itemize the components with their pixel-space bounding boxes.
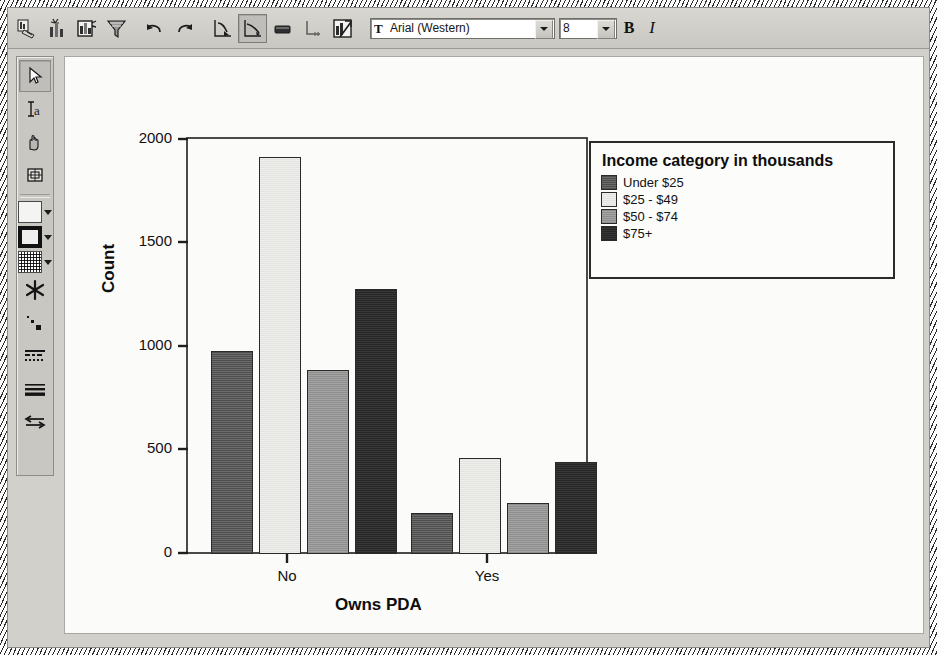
top-toolbar: T Arial (Western) 8 B I	[8, 8, 930, 49]
fill-pattern-swatch	[18, 251, 42, 273]
y-tick-label: 1000	[120, 336, 172, 353]
legend-swatch	[601, 175, 617, 190]
svg-text:a: a	[34, 103, 40, 118]
italic-button[interactable]: I	[641, 16, 663, 40]
x-axis-icon[interactable]	[208, 14, 237, 43]
x-tick-label-no: No	[247, 567, 327, 584]
y-tick-label: 1500	[120, 232, 172, 249]
y-tick-label: 2000	[120, 129, 172, 146]
chart-options-icon[interactable]	[42, 14, 71, 43]
application-window: T Arial (Western) 8 B I a	[0, 0, 937, 655]
palette-divider	[20, 194, 50, 198]
marker-tool[interactable]	[19, 274, 51, 306]
chevron-down-icon[interactable]	[44, 260, 52, 265]
hand-pan-tool[interactable]	[19, 126, 51, 158]
chevron-down-icon	[602, 27, 610, 31]
bar-yes-75plus[interactable]	[555, 462, 597, 554]
bar-no-50-74[interactable]	[307, 370, 349, 554]
legend-label: $75+	[623, 226, 652, 241]
redo-icon[interactable]	[170, 14, 199, 43]
bold-button[interactable]: B	[618, 16, 640, 40]
tool-palette: a	[16, 56, 54, 476]
y-tick-label: 500	[120, 439, 172, 456]
x-tick-label-yes: Yes	[447, 567, 527, 584]
font-family-dropdown-arrow[interactable]	[535, 20, 553, 39]
bar-chart-icon[interactable]	[72, 14, 101, 43]
legend-item[interactable]: $50 - $74	[601, 209, 883, 224]
chart-canvas[interactable]: Count 2000 1500 1000 500 0 No Yes Owns P…	[64, 56, 924, 634]
font-family-select[interactable]: T Arial (Western)	[370, 18, 555, 39]
border-color-swatch	[18, 226, 42, 248]
funnel-filter-icon[interactable]	[102, 14, 131, 43]
bar-no-25-49[interactable]	[259, 157, 301, 554]
legend[interactable]: Income category in thousands Under $25 $…	[589, 141, 895, 279]
legend-swatch	[601, 226, 617, 241]
y-axis-title: Count	[99, 244, 119, 293]
select-arrow-tool[interactable]	[19, 60, 51, 92]
legend-label: Under $25	[623, 175, 684, 190]
chart-editor-window: T Arial (Western) 8 B I a	[7, 7, 930, 648]
x-axis-title: Owns PDA	[335, 595, 422, 615]
line-style-tool[interactable]	[19, 340, 51, 372]
marker-size-tool[interactable]	[19, 307, 51, 339]
bar-yes-under25[interactable]	[411, 513, 453, 554]
font-icon: T	[374, 21, 388, 35]
legend-swatch	[601, 209, 617, 224]
toolbar-separator	[200, 16, 207, 40]
fill-pattern-tool[interactable]	[17, 251, 53, 273]
toolbar-separator	[132, 16, 139, 40]
chevron-down-icon[interactable]	[44, 235, 52, 240]
hide-legend-icon[interactable]	[268, 14, 297, 43]
swap-axes-tool[interactable]	[19, 406, 51, 438]
legend-item[interactable]: Under $25	[601, 175, 883, 190]
legend-title: Income category in thousands	[602, 152, 883, 170]
bar-no-under25[interactable]	[211, 351, 253, 554]
legend-item[interactable]: $25 - $49	[601, 192, 883, 207]
border-color-tool[interactable]	[17, 226, 53, 248]
legend-item[interactable]: $75+	[601, 226, 883, 241]
toolbar-separator	[358, 16, 365, 40]
bar-no-75plus[interactable]	[355, 289, 397, 554]
axis-corner-icon[interactable]	[298, 14, 327, 43]
svg-text:T: T	[374, 21, 383, 35]
chevron-down-icon[interactable]	[44, 210, 52, 215]
font-family-value: Arial (Western)	[390, 21, 470, 35]
bar-yes-50-74[interactable]	[507, 503, 549, 554]
transpose-chart-icon[interactable]	[328, 14, 357, 43]
clustered-bar-chart[interactable]: Count 2000 1500 1000 500 0 No Yes Owns P…	[65, 57, 923, 633]
legend-label: $25 - $49	[623, 192, 678, 207]
properties-icon[interactable]	[12, 14, 41, 43]
font-size-value: 8	[560, 21, 570, 35]
undo-icon[interactable]	[140, 14, 169, 43]
font-size-dropdown-arrow[interactable]	[597, 20, 615, 39]
text-tool[interactable]: a	[19, 93, 51, 125]
legend-swatch	[601, 192, 617, 207]
bar-yes-25-49[interactable]	[459, 458, 501, 554]
legend-label: $50 - $74	[623, 209, 678, 224]
font-size-select[interactable]: 8	[559, 18, 617, 39]
line-weight-tool[interactable]	[19, 373, 51, 405]
fill-color-swatch	[18, 201, 42, 223]
chevron-down-icon	[540, 27, 548, 31]
fill-color-tool[interactable]	[17, 201, 53, 223]
y-tick-label: 0	[120, 543, 172, 560]
y-axis-icon[interactable]	[238, 14, 267, 43]
data-label-tool[interactable]	[19, 159, 51, 191]
